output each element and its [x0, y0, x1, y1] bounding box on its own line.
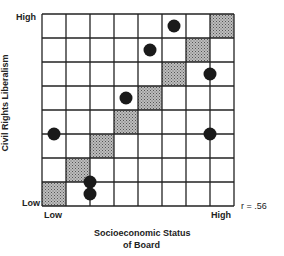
data-point [168, 20, 181, 33]
x-low-label: Low [44, 210, 62, 220]
data-point [84, 188, 97, 201]
correlation-label: r = .56 [241, 201, 267, 211]
y-axis-label: Civil Rights Liberalism [0, 54, 10, 151]
shaded-cell [138, 86, 162, 110]
data-point [120, 92, 133, 105]
shaded-cell [162, 62, 186, 86]
shaded-cell [42, 182, 66, 206]
shaded-cell [114, 110, 138, 134]
shaded-cell [186, 38, 210, 62]
shaded-cell [210, 14, 234, 38]
y-high-label: High [16, 12, 36, 22]
scatter-grid [0, 0, 284, 256]
data-point [84, 176, 97, 189]
data-point [204, 128, 217, 141]
x-high-label: High [211, 210, 231, 220]
x-axis-label-line2: of Board [123, 240, 160, 250]
data-point [204, 68, 217, 81]
data-point [144, 44, 157, 57]
shaded-cell [90, 134, 114, 158]
x-axis-label-line1: Socioeconomic Status [94, 228, 191, 238]
y-low-label: Low [22, 198, 40, 208]
data-point [48, 128, 61, 141]
